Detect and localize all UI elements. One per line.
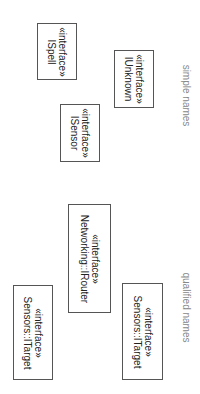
interface-name: Sensors::ITarget xyxy=(22,296,33,369)
interface-name: Sensors::ITarget xyxy=(132,295,143,368)
interface-sensors-itarget-right[interactable]: «interface» Sensors::ITarget xyxy=(122,283,163,380)
stereotype: «interface» xyxy=(134,54,145,103)
interface-networking-irouter[interactable]: «interface» Networking::IRouter xyxy=(68,204,111,313)
label-simple-names: simple names xyxy=(181,64,192,128)
label-qualified-names: qualified names xyxy=(181,272,192,344)
interface-isensor[interactable]: «interface» ISensor xyxy=(60,104,100,162)
interface-ispell[interactable]: «interface» ISpell xyxy=(37,23,77,80)
interface-name: IUnknown xyxy=(123,54,134,103)
stereotype: «interface» xyxy=(57,27,68,76)
stereotype: «interface» xyxy=(90,214,101,302)
stereotype: «interface» xyxy=(143,295,154,368)
interface-name: ISpell xyxy=(46,27,57,76)
interface-sensors-itarget-left[interactable]: «interface» Sensors::ITarget xyxy=(13,285,53,380)
stereotype: «interface» xyxy=(80,108,91,157)
interface-name: ISensor xyxy=(69,108,80,157)
interface-iunknown[interactable]: «interface» IUnknown xyxy=(114,50,154,108)
stereotype: «interface» xyxy=(33,296,44,369)
interface-name: Networking::IRouter xyxy=(79,214,90,302)
